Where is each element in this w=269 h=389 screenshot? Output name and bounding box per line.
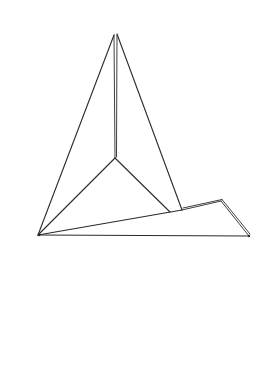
inner-right-crease: [115, 158, 170, 212]
inner-left-crease: [39, 158, 115, 234]
base-left-vertex: [38, 234, 41, 237]
sail-figure: [0, 0, 269, 389]
sail-right-edge: [117, 34, 182, 210]
mast-line-b: [117, 35, 118, 157]
sail-left-edge: [38, 35, 114, 235]
flap-right-edge-b: [222, 200, 250, 235]
base-right-vertex: [248, 235, 250, 237]
flap-top-edge-a: [182, 201, 221, 210]
flap-top-edge-b: [183, 200, 222, 209]
flap-right-edge-a: [221, 201, 249, 236]
diagram-canvas: [0, 0, 269, 389]
bottom-edge: [38, 235, 249, 236]
mast-line-a: [114, 35, 115, 158]
